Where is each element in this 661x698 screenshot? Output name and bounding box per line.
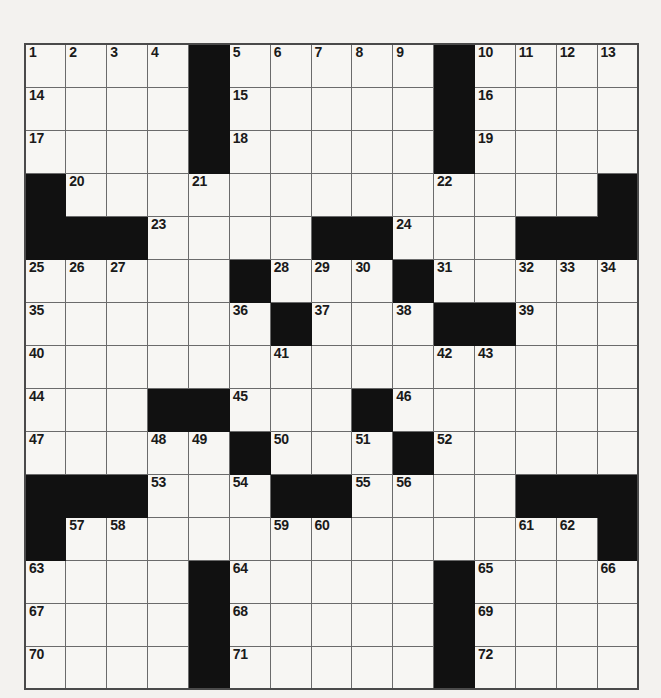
grid-cell[interactable]	[148, 603, 189, 646]
grid-cell[interactable]: 33	[556, 259, 597, 302]
grid-cell[interactable]	[597, 431, 638, 474]
grid-cell[interactable]	[148, 259, 189, 302]
grid-cell[interactable]	[188, 302, 229, 345]
grid-cell[interactable]	[474, 259, 515, 302]
grid-cell[interactable]	[148, 87, 189, 130]
grid-cell[interactable]	[107, 130, 148, 173]
grid-cell[interactable]	[515, 87, 556, 130]
grid-cell[interactable]	[556, 431, 597, 474]
grid-cell[interactable]	[352, 302, 393, 345]
grid-cell[interactable]	[597, 345, 638, 388]
grid-cell[interactable]	[352, 345, 393, 388]
grid-cell[interactable]: 47	[25, 431, 66, 474]
grid-cell[interactable]	[393, 646, 434, 689]
grid-cell[interactable]	[107, 603, 148, 646]
grid-cell[interactable]	[515, 130, 556, 173]
grid-cell[interactable]	[556, 173, 597, 216]
grid-cell[interactable]	[107, 560, 148, 603]
grid-cell[interactable]: 7	[311, 44, 352, 87]
grid-cell[interactable]	[597, 603, 638, 646]
grid-cell[interactable]	[148, 646, 189, 689]
grid-cell[interactable]: 8	[352, 44, 393, 87]
grid-cell[interactable]	[515, 646, 556, 689]
grid-cell[interactable]	[229, 216, 270, 259]
grid-cell[interactable]	[556, 302, 597, 345]
grid-cell[interactable]	[270, 388, 311, 431]
grid-cell[interactable]	[393, 173, 434, 216]
grid-cell[interactable]: 69	[474, 603, 515, 646]
grid-cell[interactable]	[66, 302, 107, 345]
grid-cell[interactable]: 58	[107, 517, 148, 560]
grid-cell[interactable]	[393, 560, 434, 603]
grid-cell[interactable]: 2	[66, 44, 107, 87]
grid-cell[interactable]	[107, 302, 148, 345]
grid-cell[interactable]: 37	[311, 302, 352, 345]
grid-cell[interactable]	[188, 474, 229, 517]
grid-cell[interactable]	[148, 173, 189, 216]
grid-cell[interactable]: 13	[597, 44, 638, 87]
grid-cell[interactable]	[311, 173, 352, 216]
grid-cell[interactable]	[352, 646, 393, 689]
grid-cell[interactable]: 14	[25, 87, 66, 130]
grid-cell[interactable]	[107, 87, 148, 130]
grid-cell[interactable]	[311, 560, 352, 603]
grid-cell[interactable]	[66, 603, 107, 646]
grid-cell[interactable]	[311, 431, 352, 474]
grid-cell[interactable]	[434, 474, 475, 517]
grid-cell[interactable]: 30	[352, 259, 393, 302]
grid-cell[interactable]: 27	[107, 259, 148, 302]
grid-cell[interactable]: 66	[597, 560, 638, 603]
grid-cell[interactable]	[474, 474, 515, 517]
grid-cell[interactable]	[66, 345, 107, 388]
grid-cell[interactable]: 9	[393, 44, 434, 87]
grid-cell[interactable]: 17	[25, 130, 66, 173]
grid-cell[interactable]	[556, 388, 597, 431]
grid-cell[interactable]	[515, 388, 556, 431]
grid-cell[interactable]	[270, 173, 311, 216]
grid-cell[interactable]: 40	[25, 345, 66, 388]
grid-cell[interactable]: 11	[515, 44, 556, 87]
grid-cell[interactable]	[597, 388, 638, 431]
grid-cell[interactable]	[107, 388, 148, 431]
grid-cell[interactable]	[66, 388, 107, 431]
grid-cell[interactable]: 3	[107, 44, 148, 87]
grid-cell[interactable]	[556, 345, 597, 388]
grid-cell[interactable]	[188, 345, 229, 388]
grid-cell[interactable]	[270, 603, 311, 646]
grid-cell[interactable]	[393, 345, 434, 388]
grid-cell[interactable]: 18	[229, 130, 270, 173]
grid-cell[interactable]	[270, 560, 311, 603]
grid-cell[interactable]: 36	[229, 302, 270, 345]
grid-cell[interactable]	[311, 130, 352, 173]
grid-cell[interactable]: 31	[434, 259, 475, 302]
grid-cell[interactable]: 45	[229, 388, 270, 431]
grid-cell[interactable]	[597, 302, 638, 345]
grid-cell[interactable]: 1	[25, 44, 66, 87]
grid-cell[interactable]: 57	[66, 517, 107, 560]
grid-cell[interactable]: 65	[474, 560, 515, 603]
grid-cell[interactable]: 54	[229, 474, 270, 517]
grid-cell[interactable]: 61	[515, 517, 556, 560]
grid-cell[interactable]	[270, 87, 311, 130]
grid-cell[interactable]	[597, 130, 638, 173]
grid-cell[interactable]	[556, 87, 597, 130]
grid-cell[interactable]	[393, 517, 434, 560]
grid-cell[interactable]	[311, 603, 352, 646]
grid-cell[interactable]	[270, 216, 311, 259]
grid-cell[interactable]	[148, 130, 189, 173]
grid-cell[interactable]	[515, 173, 556, 216]
grid-cell[interactable]	[515, 560, 556, 603]
grid-cell[interactable]	[229, 173, 270, 216]
grid-cell[interactable]	[352, 517, 393, 560]
grid-cell[interactable]: 67	[25, 603, 66, 646]
grid-cell[interactable]	[434, 517, 475, 560]
grid-cell[interactable]	[148, 517, 189, 560]
grid-cell[interactable]: 44	[25, 388, 66, 431]
grid-cell[interactable]	[393, 603, 434, 646]
grid-cell[interactable]: 70	[25, 646, 66, 689]
grid-cell[interactable]	[434, 216, 475, 259]
grid-cell[interactable]: 53	[148, 474, 189, 517]
grid-cell[interactable]: 32	[515, 259, 556, 302]
grid-cell[interactable]	[393, 87, 434, 130]
grid-cell[interactable]: 38	[393, 302, 434, 345]
